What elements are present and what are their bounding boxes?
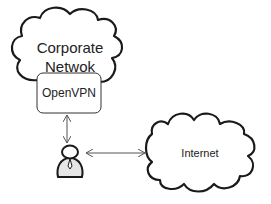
- corporate-label-line2: Netwok: [20, 57, 120, 76]
- network-diagram: [0, 0, 271, 204]
- corporate-network-label: Corporate Netwok: [20, 38, 120, 76]
- openvpn-label: OpenVPN: [37, 86, 101, 100]
- corporate-label-line1: Corporate: [20, 38, 120, 57]
- person-icon: [58, 146, 83, 178]
- internet-label: Internet: [160, 147, 240, 159]
